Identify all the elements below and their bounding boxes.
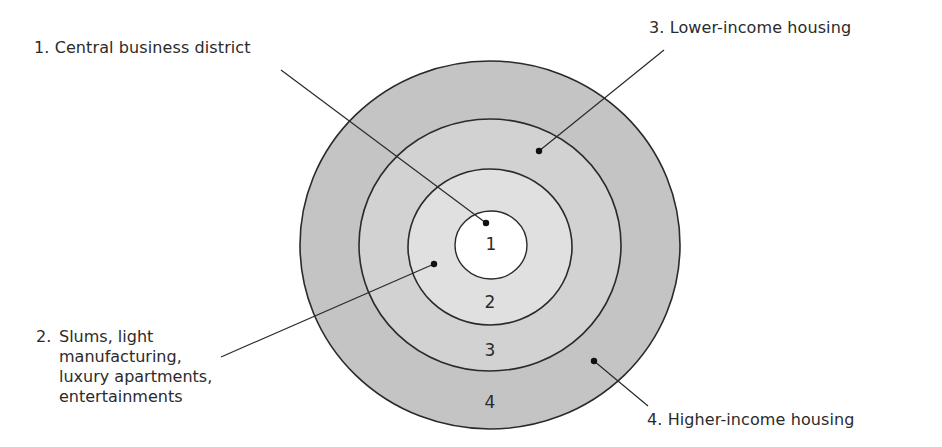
label-zone-2-lines: Slums, light manufacturing, luxury apart… <box>59 327 212 407</box>
leader-dot-zone-2 <box>431 261 437 267</box>
leader-dot-zone-3 <box>536 148 542 154</box>
label-zone-2-line-4: entertainments <box>59 387 212 407</box>
leader-dot-zone-4 <box>591 358 597 364</box>
label-zone-2-line-3: luxury apartments, <box>59 367 212 387</box>
label-zone-1: 1. Central business district <box>34 38 251 58</box>
ring-number-4: 4 <box>480 392 500 412</box>
label-zone-2-line-2: manufacturing, <box>59 347 212 367</box>
leader-dot-zone-1 <box>483 220 489 226</box>
label-zone-2: 2. Slums, light manufacturing, luxury ap… <box>36 327 236 409</box>
ring-number-1: 1 <box>481 234 501 254</box>
label-zone-3: 3. Lower-income housing <box>649 18 851 38</box>
ring-number-2: 2 <box>480 292 500 312</box>
label-zone-4: 4. Higher-income housing <box>647 410 855 430</box>
ring-number-3: 3 <box>480 340 500 360</box>
label-zone-2-number: 2. <box>36 327 51 347</box>
label-zone-2-line-1: Slums, light <box>59 327 212 347</box>
